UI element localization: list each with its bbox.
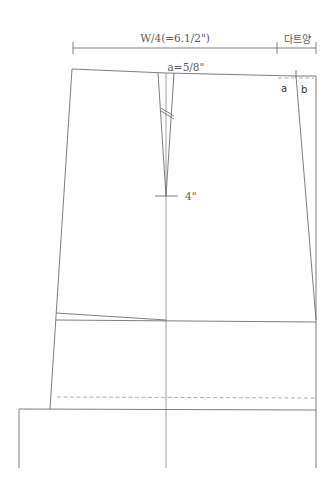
right-side-dart-line bbox=[296, 76, 316, 320]
dart-length-label: 4" bbox=[185, 190, 197, 202]
hip-line bbox=[56, 320, 316, 322]
dart-leg-right bbox=[166, 73, 174, 196]
waist-dimension: W/4(=6.1/2") 다트양 bbox=[73, 32, 316, 54]
dart-amount-label: 다트양 bbox=[284, 34, 311, 45]
left-side-seam bbox=[50, 69, 72, 409]
dart-width-label: a=5/8" bbox=[168, 61, 205, 73]
point-a-label: a bbox=[281, 83, 287, 94]
dart-leg-left bbox=[158, 73, 166, 196]
hem-guide-dashed bbox=[57, 397, 316, 398]
hem-line bbox=[19, 409, 316, 410]
hip-slope-line bbox=[56, 313, 166, 320]
waist-measure-label: W/4(=6.1/2") bbox=[140, 32, 210, 44]
point-b-label: b bbox=[301, 84, 307, 95]
pattern-diagram: W/4(=6.1/2") 다트양 a=5/8" a b 4" bbox=[0, 0, 333, 498]
